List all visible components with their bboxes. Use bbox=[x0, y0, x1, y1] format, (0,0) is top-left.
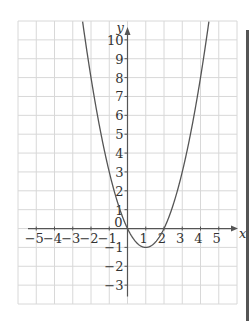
y-tick-label: −3 bbox=[104, 278, 123, 293]
page-edge-divider bbox=[246, 30, 249, 321]
x-tick-label: −5 bbox=[25, 231, 44, 246]
y-tick-label: 9 bbox=[115, 52, 123, 67]
y-tick-label: 4 bbox=[115, 146, 123, 161]
y-tick-label: 6 bbox=[115, 108, 123, 123]
y-tick-label: −2 bbox=[104, 259, 123, 274]
y-tick-label: 8 bbox=[115, 71, 123, 86]
x-tick-label: 4 bbox=[194, 231, 202, 246]
y-tick-label: 7 bbox=[115, 89, 123, 104]
x-tick-label: −2 bbox=[79, 231, 98, 246]
x-tick-label: 1 bbox=[140, 231, 148, 246]
x-tick-label: −3 bbox=[61, 231, 80, 246]
y-tick-label: 5 bbox=[115, 127, 123, 142]
x-tick-label: −4 bbox=[43, 231, 62, 246]
y-axis-title: y bbox=[116, 20, 125, 35]
x-tick-label: 3 bbox=[176, 231, 184, 246]
parabola-graph: −5−4−3−2−1012345−3−2−112345678910 x y bbox=[0, 0, 249, 321]
y-tick-label: −1 bbox=[104, 240, 123, 255]
y-tick-label: 3 bbox=[115, 165, 123, 180]
y-tick-label: 10 bbox=[107, 33, 124, 48]
axes bbox=[28, 27, 238, 296]
x-tick-label: 5 bbox=[213, 231, 221, 246]
